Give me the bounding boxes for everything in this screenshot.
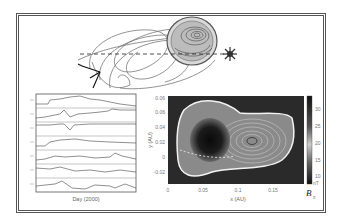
xtick: 0.15 (268, 187, 278, 193)
y-axis-label: y (AU) (147, 132, 153, 148)
time-series-xlabel: Day (2000) (72, 196, 99, 202)
colorbar-label-sub: z (313, 194, 316, 200)
ytick: 0.04 (155, 124, 165, 130)
colorbar-tick: 25 (315, 123, 321, 129)
ytick: 0.02 (155, 139, 165, 145)
colorbar-unit: nT (313, 180, 319, 186)
ytick: 0.06 (155, 109, 165, 115)
colorbar-tick: 15 (315, 157, 321, 163)
colorbar-tick: 10 (315, 173, 321, 179)
colorbar (307, 96, 312, 184)
dark-core (190, 118, 230, 162)
flux-rope-schematic (78, 17, 237, 89)
colorbar-tick: 30 (315, 106, 321, 112)
time-series-panel: Day (2000) (30, 94, 136, 202)
ytick: -0.02 (154, 169, 166, 175)
colorbar-label: B (306, 188, 312, 198)
xtick: 0 (167, 187, 170, 193)
ytick: 0.06 (155, 95, 165, 101)
sun-icon (223, 47, 237, 61)
xtick: 0.1 (235, 187, 242, 193)
x-axis-label: x (AU) (230, 196, 246, 202)
field-vectors (78, 64, 100, 88)
bz-map-panel: 0.06 0.06 0.04 0.02 0 -0.02 y (AU) 0 0.0… (147, 95, 321, 202)
xtick: 0.05 (198, 187, 208, 193)
ytick: 0 (162, 154, 165, 160)
figure-canvas: Day (2000) 0.06 0.06 0.04 0.02 0 -0.02 y… (0, 0, 340, 224)
colorbar-tick: 20 (315, 140, 321, 146)
